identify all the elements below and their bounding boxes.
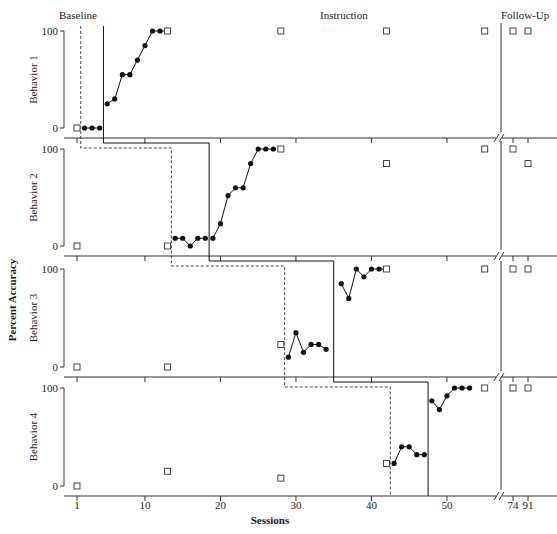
data-point <box>173 236 178 241</box>
y-axis-label: Percent Accuracy <box>6 258 18 341</box>
data-point <box>188 243 193 248</box>
behavior-label: Behavior 3 <box>27 293 39 342</box>
data-point <box>407 444 412 449</box>
phase-change-lines <box>81 26 428 496</box>
probe-point <box>165 364 171 370</box>
y-tick-100: 100 <box>42 25 59 37</box>
probe-point <box>482 28 488 34</box>
data-point <box>437 407 442 412</box>
probe-point <box>525 161 531 167</box>
x-axis-label: Sessions <box>251 514 290 526</box>
data-point <box>210 236 215 241</box>
data-point <box>225 193 230 198</box>
x-tick-1: 1 <box>74 499 80 511</box>
probe-point <box>482 146 488 152</box>
data-point <box>195 236 200 241</box>
y-tick-0: 0 <box>53 122 59 134</box>
data-point <box>293 330 298 335</box>
data-point <box>346 296 351 301</box>
data-point <box>422 452 427 457</box>
data-point <box>308 342 313 347</box>
probe-point <box>482 385 488 391</box>
data-point <box>324 347 329 352</box>
y-tick-0: 0 <box>53 361 59 373</box>
probe-point <box>278 341 284 347</box>
data-point <box>271 146 276 151</box>
instruction-series <box>341 269 386 298</box>
data-point <box>233 185 238 190</box>
x-tick-30: 30 <box>290 499 302 511</box>
probe-point <box>165 468 171 474</box>
behavior-label: Behavior 4 <box>27 412 39 461</box>
panel-behavior-1: 1000Behavior 1 <box>27 23 557 143</box>
x-tick-40: 40 <box>366 499 378 511</box>
phase-label-instruction: Instruction <box>320 9 368 21</box>
y-tick-0: 0 <box>53 480 59 492</box>
probe-point <box>384 266 390 272</box>
data-point <box>248 161 253 166</box>
y-tick-0: 0 <box>53 240 59 252</box>
data-point <box>339 281 344 286</box>
data-point <box>90 125 95 130</box>
y-tick-100: 100 <box>42 143 59 155</box>
probe-point <box>510 28 516 34</box>
data-point <box>369 266 374 271</box>
probe-point <box>384 460 390 466</box>
y-tick-100: 100 <box>42 382 59 394</box>
data-point <box>256 146 261 151</box>
data-point <box>150 28 155 33</box>
data-point <box>112 96 117 101</box>
probe-point <box>510 146 516 152</box>
data-point <box>452 385 457 390</box>
data-point <box>399 444 404 449</box>
panel-behavior-2: 1000Behavior 2 <box>27 141 557 261</box>
x-tick-20: 20 <box>215 499 227 511</box>
probe-point <box>278 146 284 152</box>
x-tick-10: 10 <box>139 499 151 511</box>
x-tick-91: 91 <box>523 499 534 511</box>
data-point <box>459 385 464 390</box>
data-point <box>105 101 110 106</box>
probe-point <box>510 385 516 391</box>
data-point <box>82 125 87 130</box>
data-point <box>361 274 366 279</box>
x-tick-74: 74 <box>508 499 520 511</box>
panels: 1000Behavior 11000Behavior 21000Behavior… <box>27 23 557 501</box>
data-point <box>241 185 246 190</box>
behavior-label: Behavior 1 <box>27 55 39 104</box>
data-point <box>316 342 321 347</box>
probe-point <box>74 243 80 249</box>
x-tick-50: 50 <box>441 499 453 511</box>
data-point <box>429 398 434 403</box>
phase-label-followup: Follow-Up <box>501 9 550 21</box>
data-point <box>444 393 449 398</box>
y-tick-100: 100 <box>42 263 59 275</box>
data-point <box>135 58 140 63</box>
behavior-label: Behavior 2 <box>27 173 39 222</box>
multiple-baseline-chart: Baseline Instruction Follow-Up Percent A… <box>0 0 557 534</box>
probe-point <box>482 266 488 272</box>
instruction-series <box>107 31 167 104</box>
probe-point <box>525 266 531 272</box>
probe-point <box>525 28 531 34</box>
probe-point <box>525 385 531 391</box>
data-point <box>218 221 223 226</box>
probe-point <box>278 28 284 34</box>
phase-label-baseline: Baseline <box>59 9 97 21</box>
phase-change-line-solid <box>103 26 428 496</box>
probe-point <box>278 475 284 481</box>
x-tick-labels: 110203040507491 <box>74 499 533 511</box>
data-point <box>127 72 132 77</box>
data-point <box>97 125 102 130</box>
data-point <box>180 236 185 241</box>
panel-behavior-4: 1000Behavior 4 <box>27 380 557 501</box>
data-point <box>467 385 472 390</box>
probe-point <box>165 28 171 34</box>
probe-point <box>510 266 516 272</box>
data-point <box>157 28 162 33</box>
data-point <box>301 350 306 355</box>
probe-point <box>384 161 390 167</box>
probe-point <box>74 483 80 489</box>
data-point <box>414 452 419 457</box>
data-point <box>392 461 397 466</box>
